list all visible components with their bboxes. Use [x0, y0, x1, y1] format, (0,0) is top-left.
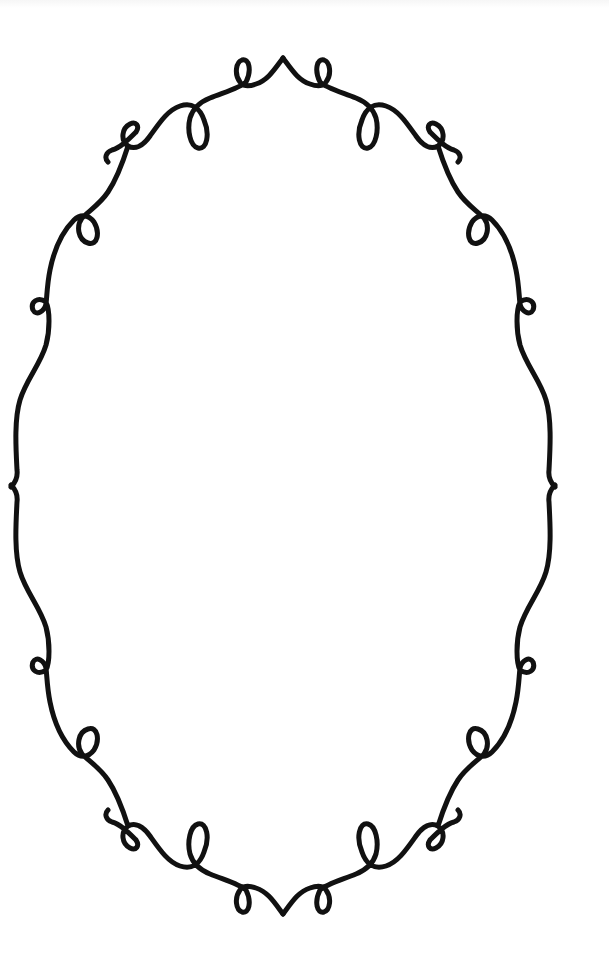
frame-quadrant-top-left	[11, 58, 283, 487]
ornamental-oval-frame	[0, 0, 609, 965]
frame-quadrant-bottom-left	[11, 485, 283, 914]
frame-quadrant-bottom-right	[283, 485, 555, 914]
frame-strokes	[11, 58, 555, 914]
image-canvas: Decorative ornamental oval frame with cu…	[0, 0, 609, 965]
frame-quadrant-top-right	[283, 58, 555, 487]
